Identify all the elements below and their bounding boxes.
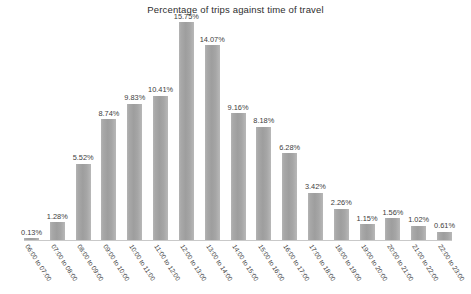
- bar-value-label: 10.41%: [148, 85, 173, 94]
- bar-group: 2.26%: [334, 22, 349, 240]
- x-tick-label: 20:00 to 21:00: [386, 243, 415, 282]
- bar[interactable]: [334, 209, 349, 240]
- x-tick-label: 10:00 to 11:00: [128, 243, 157, 282]
- bar[interactable]: [127, 104, 142, 240]
- bar[interactable]: [24, 238, 39, 240]
- x-tick-label: 07:00 to 08:00: [50, 243, 79, 282]
- bar-value-label: 1.56%: [382, 208, 403, 217]
- bar-group: 14.07%: [205, 22, 220, 240]
- x-tick-label: 18:00 to 19:00: [334, 243, 363, 282]
- bar[interactable]: [179, 22, 194, 240]
- bar[interactable]: [385, 218, 400, 240]
- bar-group: 1.15%: [360, 22, 375, 240]
- bar-value-label: 1.28%: [47, 212, 68, 221]
- bar-value-label: 9.16%: [228, 103, 249, 112]
- bar-group: 15.75%: [179, 22, 194, 240]
- x-axis-tick-labels: 06:00 to 07:0007:00 to 08:0008:00 to 09:…: [24, 243, 452, 294]
- x-tick-label: 21:00 to 22:00: [412, 243, 441, 282]
- bar-value-label: 15.75%: [174, 12, 199, 21]
- bar-group: 1.56%: [385, 22, 400, 240]
- x-tick-label: 06:00 to 07:00: [24, 243, 53, 282]
- bar-chart: Percentage of trips against time of trav…: [0, 0, 471, 294]
- bar[interactable]: [76, 164, 91, 240]
- x-tick-label: 08:00 to 09:00: [76, 243, 105, 282]
- bar-group: 1.28%: [50, 22, 65, 240]
- bar[interactable]: [282, 153, 297, 240]
- x-tick-label: 14:00 to 15:00: [231, 243, 260, 282]
- x-tick-label: 16:00 to 17:00: [283, 243, 312, 282]
- x-tick-label: 15:00 to 16:00: [257, 243, 286, 282]
- bar[interactable]: [231, 113, 246, 240]
- bar-group: 0.61%: [437, 22, 452, 240]
- bar-group: 10.41%: [153, 22, 168, 240]
- bar[interactable]: [50, 222, 65, 240]
- x-tick-label: 11:00 to 12:00: [153, 243, 182, 282]
- bar[interactable]: [437, 232, 452, 240]
- bar-value-label: 8.18%: [253, 116, 274, 125]
- x-tick-label: 09:00 to 10:00: [102, 243, 131, 282]
- bar-value-label: 3.42%: [305, 182, 326, 191]
- bar-group: 8.74%: [101, 22, 116, 240]
- bar[interactable]: [205, 45, 220, 240]
- x-tick-label: 13:00 to 14:00: [205, 243, 234, 282]
- bar[interactable]: [308, 193, 323, 240]
- bar[interactable]: [101, 119, 116, 240]
- x-tick-label: 12:00 to 13:00: [179, 243, 208, 282]
- x-tick-label: 22:00 to 23:00: [437, 243, 466, 282]
- plot-area: 0.13%1.28%5.52%8.74%9.83%10.41%15.75%14.…: [24, 22, 452, 240]
- bar-group: 0.13%: [24, 22, 39, 240]
- chart-title: Percentage of trips against time of trav…: [0, 4, 471, 15]
- bar-group: 3.42%: [308, 22, 323, 240]
- bar-group: 9.16%: [231, 22, 246, 240]
- bar-group: 5.52%: [76, 22, 91, 240]
- bar-group: 9.83%: [127, 22, 142, 240]
- x-tick-label: 19:00 to 20:00: [360, 243, 389, 282]
- bar-value-label: 6.28%: [279, 143, 300, 152]
- bar-group: 6.28%: [282, 22, 297, 240]
- x-tick-label: 17:00 to 18:00: [308, 243, 337, 282]
- bar-value-label: 2.26%: [331, 198, 352, 207]
- bar-value-label: 14.07%: [200, 35, 225, 44]
- bar-value-label: 1.15%: [357, 214, 378, 223]
- bar[interactable]: [411, 226, 426, 240]
- x-axis-line: [24, 240, 452, 241]
- bar[interactable]: [256, 127, 271, 240]
- bar-value-label: 1.02%: [408, 215, 429, 224]
- bar-value-label: 0.13%: [21, 228, 42, 237]
- bar-group: 1.02%: [411, 22, 426, 240]
- bar[interactable]: [153, 96, 168, 240]
- bar-value-label: 9.83%: [124, 93, 145, 102]
- bar-value-label: 5.52%: [73, 153, 94, 162]
- bar[interactable]: [360, 224, 375, 240]
- bar-group: 8.18%: [256, 22, 271, 240]
- bar-value-label: 0.61%: [434, 221, 455, 230]
- bar-value-label: 8.74%: [98, 109, 119, 118]
